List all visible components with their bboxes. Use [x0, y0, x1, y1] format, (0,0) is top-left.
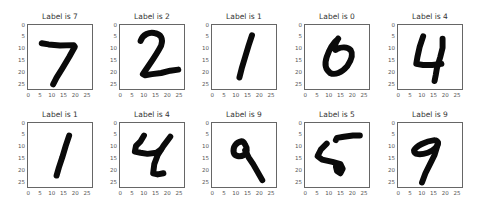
y-tick-label: 5 — [385, 131, 395, 137]
y-tick-label: 25 — [199, 179, 209, 185]
y-tick-label: 15 — [15, 155, 25, 161]
x-tick-label: 0 — [299, 190, 311, 196]
y-tick-label: 10 — [292, 143, 302, 149]
panel-title: Label is 1 — [7, 110, 113, 119]
x-tick-label: 0 — [114, 190, 126, 196]
x-tick-label: 5 — [34, 190, 46, 196]
y-tick-label: 5 — [107, 131, 117, 137]
y-tick-label: 20 — [15, 69, 25, 75]
x-tick-label: 25 — [358, 92, 370, 98]
digit-image-axes — [397, 24, 463, 90]
y-tick-label: 20 — [385, 69, 395, 75]
x-tick-label: 15 — [58, 190, 70, 196]
y-tick-label: 20 — [199, 69, 209, 75]
y-tick-label: 0 — [15, 120, 25, 126]
x-tick-label: 10 — [416, 190, 428, 196]
y-tick-label: 20 — [385, 167, 395, 173]
y-tick-label: 25 — [107, 179, 117, 185]
y-tick-label: 0 — [107, 22, 117, 28]
x-tick-label: 10 — [230, 92, 242, 98]
x-tick-label: 25 — [81, 92, 93, 98]
x-tick-label: 10 — [323, 190, 335, 196]
x-tick-label: 20 — [439, 92, 451, 98]
x-tick-label: 5 — [311, 190, 323, 196]
y-tick-label: 15 — [385, 155, 395, 161]
y-tick-label: 10 — [385, 143, 395, 149]
y-tick-label: 0 — [385, 120, 395, 126]
y-tick-label: 15 — [292, 57, 302, 63]
y-tick-label: 0 — [292, 120, 302, 126]
digit-image-axes — [119, 122, 185, 188]
x-tick-label: 0 — [392, 92, 404, 98]
digit-image — [120, 25, 184, 89]
x-tick-label: 25 — [451, 190, 463, 196]
y-tick-label: 10 — [107, 143, 117, 149]
y-tick-label: 15 — [199, 57, 209, 63]
y-tick-label: 25 — [385, 179, 395, 185]
y-tick-label: 15 — [385, 57, 395, 63]
y-tick-label: 20 — [15, 167, 25, 173]
x-tick-label: 5 — [34, 92, 46, 98]
y-tick-label: 25 — [15, 179, 25, 185]
x-tick-label: 0 — [22, 92, 34, 98]
x-tick-label: 20 — [69, 92, 81, 98]
digit-figure: Label is 705101520250510152025Label is 2… — [0, 0, 483, 211]
y-tick-label: 5 — [199, 131, 209, 137]
digit-image — [398, 123, 462, 187]
x-tick-label: 5 — [311, 92, 323, 98]
digit-image-axes — [211, 122, 277, 188]
x-tick-label: 5 — [218, 190, 230, 196]
y-tick-label: 10 — [199, 143, 209, 149]
y-tick-label: 15 — [15, 57, 25, 63]
x-tick-label: 15 — [428, 190, 440, 196]
x-tick-label: 20 — [253, 92, 265, 98]
x-tick-label: 25 — [173, 92, 185, 98]
x-tick-label: 20 — [346, 190, 358, 196]
x-tick-label: 25 — [265, 92, 277, 98]
x-tick-label: 0 — [206, 92, 218, 98]
y-tick-label: 5 — [199, 33, 209, 39]
y-tick-label: 5 — [15, 33, 25, 39]
y-tick-label: 10 — [385, 45, 395, 51]
digit-image-axes — [119, 24, 185, 90]
x-tick-label: 10 — [138, 190, 150, 196]
digit-image — [28, 25, 92, 89]
y-tick-label: 5 — [15, 131, 25, 137]
panel-title: Label is 7 — [7, 12, 113, 21]
x-tick-label: 20 — [439, 190, 451, 196]
digit-image-axes — [27, 122, 93, 188]
y-tick-label: 20 — [107, 167, 117, 173]
panel-title: Label is 4 — [99, 110, 205, 119]
panel-title: Label is 9 — [191, 110, 297, 119]
x-tick-label: 5 — [404, 190, 416, 196]
x-tick-label: 5 — [126, 92, 138, 98]
y-tick-label: 20 — [292, 69, 302, 75]
y-tick-label: 20 — [292, 167, 302, 173]
x-tick-label: 0 — [22, 190, 34, 196]
digit-image-axes — [397, 122, 463, 188]
x-tick-label: 15 — [428, 92, 440, 98]
x-tick-label: 0 — [206, 190, 218, 196]
y-tick-label: 10 — [15, 45, 25, 51]
x-tick-label: 5 — [218, 92, 230, 98]
digit-image-axes — [304, 122, 370, 188]
y-tick-label: 15 — [292, 155, 302, 161]
y-tick-label: 10 — [292, 45, 302, 51]
y-tick-label: 25 — [292, 81, 302, 87]
x-tick-label: 15 — [58, 92, 70, 98]
x-tick-label: 25 — [81, 190, 93, 196]
digit-image — [120, 123, 184, 187]
x-tick-label: 20 — [161, 92, 173, 98]
x-tick-label: 15 — [150, 190, 162, 196]
panel-title: Label is 9 — [377, 110, 483, 119]
y-tick-label: 5 — [292, 33, 302, 39]
x-tick-label: 15 — [242, 92, 254, 98]
y-tick-label: 25 — [107, 81, 117, 87]
digit-image — [305, 25, 369, 89]
x-tick-label: 10 — [46, 190, 58, 196]
y-tick-label: 0 — [15, 22, 25, 28]
y-tick-label: 0 — [199, 120, 209, 126]
y-tick-label: 25 — [385, 81, 395, 87]
y-tick-label: 10 — [199, 45, 209, 51]
y-tick-label: 15 — [107, 57, 117, 63]
